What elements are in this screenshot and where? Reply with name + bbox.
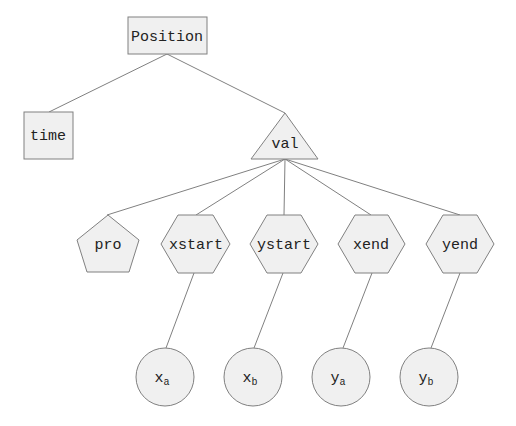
node-time: time	[24, 112, 73, 159]
svg-text:xend: xend	[353, 237, 389, 254]
svg-text:val: val	[271, 136, 298, 153]
tree-diagram: Position time val pro xstart ystart xend…	[0, 0, 516, 426]
node-yend: yend	[426, 215, 494, 273]
node-ya: ya	[312, 348, 370, 406]
svg-text:Position: Position	[131, 29, 203, 46]
node-xa: xa	[136, 348, 194, 406]
node-xend: xend	[338, 215, 405, 273]
svg-text:pro: pro	[94, 237, 121, 254]
node-position: Position	[128, 17, 207, 54]
node-xb: xb	[224, 348, 282, 406]
svg-text:time: time	[30, 128, 66, 145]
node-yb: yb	[400, 348, 458, 406]
svg-text:xstart: xstart	[169, 237, 223, 254]
svg-text:yend: yend	[442, 237, 478, 254]
node-val: val	[251, 113, 318, 159]
node-xstart: xstart	[161, 215, 230, 273]
svg-text:ystart: ystart	[257, 237, 311, 254]
node-pro: pro	[77, 215, 139, 272]
edges	[49, 54, 460, 348]
node-ystart: ystart	[250, 215, 318, 273]
